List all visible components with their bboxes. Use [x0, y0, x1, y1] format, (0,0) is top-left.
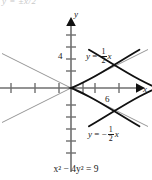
x-axis-label: x	[143, 84, 147, 94]
hyperbola-figure: y = ±x/2	[0, 0, 152, 180]
asym-pos-denominator: 2	[101, 56, 107, 65]
figure-caption-equation: x² − 4y² = 9	[0, 164, 152, 174]
axes-group	[0, 17, 145, 172]
asymptote-negative-label: y = − 1 2 x	[88, 126, 119, 144]
asymptote-positive-label: y = 1 2 x	[86, 48, 112, 66]
asym-neg-denominator: 2	[108, 134, 114, 143]
asym-pos-numerator: 1	[101, 48, 107, 56]
asym-neg-sign: −	[102, 129, 107, 139]
asym-pos-fraction: 1 2	[101, 48, 107, 66]
asym-pos-variable: x	[108, 51, 112, 61]
asym-pos-equals: =	[92, 51, 97, 61]
asym-neg-fraction: 1 2	[108, 126, 114, 144]
x-tick-label-6: 6	[105, 94, 110, 104]
y-tick-label-4: 4	[58, 51, 63, 61]
asym-neg-numerator: 1	[108, 126, 114, 134]
asym-neg-equals: =	[94, 129, 99, 139]
asym-neg-variable: x	[115, 129, 119, 139]
asym-neg-lhs: y	[88, 129, 92, 139]
graph-canvas	[0, 0, 152, 180]
asym-pos-lhs: y	[86, 51, 90, 61]
y-axis-label: y	[74, 9, 78, 19]
